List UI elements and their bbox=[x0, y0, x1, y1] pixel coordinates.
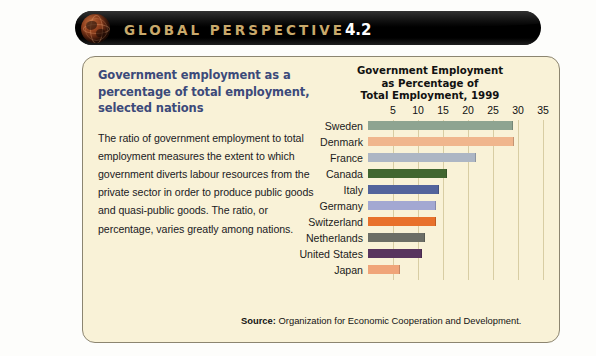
globe-icon bbox=[81, 14, 110, 43]
bar-row: Switzerland bbox=[368, 216, 553, 232]
bar-row: United States bbox=[368, 248, 553, 264]
bar-japan bbox=[368, 265, 400, 274]
bar-label-denmark: Denmark bbox=[320, 136, 363, 149]
bar-row: France bbox=[368, 152, 553, 168]
bar-row: Netherlands bbox=[368, 232, 553, 248]
x-tick-20: 20 bbox=[462, 104, 474, 116]
banner-title-number: 4.2 bbox=[345, 21, 372, 39]
bar-label-france: France bbox=[330, 152, 363, 165]
x-tick-10: 10 bbox=[412, 104, 424, 116]
bar-label-switzerland: Switzerland bbox=[308, 216, 363, 229]
chart-title-line-2: Total Employment, 1999 bbox=[310, 90, 550, 103]
bar-label-canada: Canada bbox=[326, 168, 363, 181]
bar-row: Germany bbox=[368, 200, 553, 216]
bar-row: Italy bbox=[368, 184, 553, 200]
bar-chart: Government Employmentas Percentage ofTot… bbox=[288, 65, 550, 295]
bar-row: Canada bbox=[368, 168, 553, 184]
bar-label-italy: Italy bbox=[344, 184, 363, 197]
bar-label-united-states: United States bbox=[299, 248, 363, 261]
bar-germany bbox=[368, 201, 436, 210]
figure-panel: Government employment as a percentage of… bbox=[82, 56, 560, 343]
source-text: Organization for Economic Cooperation an… bbox=[279, 315, 522, 326]
bar-label-japan: Japan bbox=[334, 264, 363, 277]
bar-italy bbox=[368, 185, 439, 194]
bar-united-states bbox=[368, 249, 422, 258]
banner-shadow bbox=[75, 38, 541, 45]
chart-title-line-1: as Percentage of bbox=[310, 78, 550, 91]
x-tick-5: 5 bbox=[390, 104, 396, 116]
banner-title-label: GLOBAL PERSPECTIVE bbox=[124, 22, 345, 38]
bar-sweden bbox=[368, 121, 513, 130]
x-tick-25: 25 bbox=[487, 104, 499, 116]
bar-switzerland bbox=[368, 217, 436, 226]
bar-row: Japan bbox=[368, 264, 553, 280]
figure-body-text: The ratio of government employment to to… bbox=[98, 129, 314, 238]
bar-canada bbox=[368, 169, 447, 178]
chart-x-axis: 5101520253035 bbox=[368, 104, 553, 118]
bar-label-germany: Germany bbox=[319, 200, 363, 213]
chart-title: Government Employmentas Percentage ofTot… bbox=[288, 65, 550, 103]
bar-denmark bbox=[368, 137, 514, 146]
banner-title: GLOBAL PERSPECTIVE4.2 bbox=[124, 21, 371, 39]
bar-row: Denmark bbox=[368, 136, 553, 152]
left-column: Government employment as a percentage of… bbox=[98, 67, 314, 238]
global-perspective-banner: GLOBAL PERSPECTIVE4.2 bbox=[75, 11, 541, 45]
bar-france bbox=[368, 153, 476, 162]
source-label: Source: bbox=[241, 315, 276, 326]
bar-label-netherlands: Netherlands bbox=[306, 232, 363, 245]
bar-label-sweden: Sweden bbox=[325, 120, 363, 133]
x-tick-15: 15 bbox=[437, 104, 449, 116]
x-tick-35: 35 bbox=[537, 104, 549, 116]
bar-row: Sweden bbox=[368, 120, 553, 136]
x-tick-30: 30 bbox=[512, 104, 524, 116]
bar-netherlands bbox=[368, 233, 425, 242]
chart-title-line-0: Government Employment bbox=[310, 65, 550, 78]
figure-heading: Government employment as a percentage of… bbox=[98, 67, 314, 117]
chart-plot-area: SwedenDenmarkFranceCanadaItalyGermanySwi… bbox=[368, 120, 553, 280]
source-note: Source: Organization for Economic Cooper… bbox=[241, 315, 521, 326]
